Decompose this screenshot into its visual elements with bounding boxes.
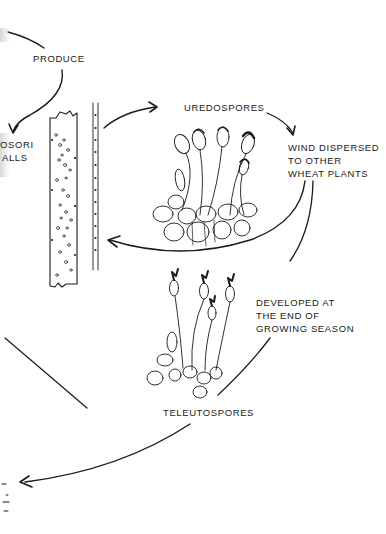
wheat-stem-illustration (50, 111, 77, 287)
offscreen-text-fragments (2, 484, 9, 511)
label-developed-line3: GROWING SEASON (256, 322, 354, 335)
label-teleutospores: TELEUTOSPORES (163, 406, 254, 419)
uredospores-illustration (153, 127, 257, 246)
diagram-artwork (0, 0, 386, 534)
label-alls: ALLS (2, 151, 28, 164)
arrow-produce-to-osori (13, 70, 62, 132)
label-uredospores: UREDOSPORES (184, 101, 265, 114)
scan-edge-shadow (0, 28, 10, 42)
label-wind-line2: TO OTHER (288, 154, 342, 167)
label-developed-line2: THE END OF (256, 309, 320, 322)
connector-diagonal-left (5, 338, 87, 408)
label-osori: OSORI (0, 138, 34, 151)
leaf-edge-illustration (93, 103, 98, 270)
label-produce: PRODUCE (33, 52, 85, 65)
arrow-stem-to-uredospores (104, 107, 155, 128)
connector-to-produce (8, 32, 44, 48)
label-wind-line1: WIND DISPERSED (288, 141, 379, 154)
label-developed-line1: DEVELOPED AT (256, 296, 335, 309)
connector-developed-to-teleutospores (218, 338, 270, 395)
arrow-teleutospores-to-left (25, 424, 190, 482)
arrow-wind-back-to-stem (110, 181, 305, 251)
teleutospores-illustration (147, 269, 235, 398)
label-wind-line3: WHEAT PLANTS (288, 167, 368, 180)
diagram-canvas: PRODUCE OSORI ALLS UREDOSPORES WIND DISP… (0, 0, 386, 534)
connector-wind-to-developed (290, 181, 313, 261)
